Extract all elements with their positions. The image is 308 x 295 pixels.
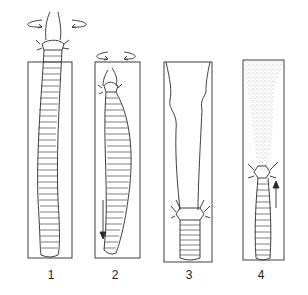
panel-1: [28, 12, 87, 258]
panel-label-2: 2: [105, 268, 125, 282]
rotation-arrows-icon: [28, 20, 87, 28]
worm-burrow-diagram: [0, 0, 308, 295]
panel-label-3: 3: [179, 268, 199, 282]
panel-3: [164, 62, 212, 262]
burrow-box-2: [95, 62, 140, 258]
burrow-box-1: [28, 62, 72, 258]
panel-label-1: 1: [41, 268, 61, 282]
panel-2: [95, 52, 140, 258]
up-arrow-icon: [273, 181, 279, 208]
rotation-arrows-icon: [97, 52, 136, 60]
stippled-sediment: [244, 61, 283, 170]
panel-label-4: 4: [251, 268, 271, 282]
down-arrow-icon: [100, 200, 106, 239]
panel-4: [243, 60, 284, 260]
